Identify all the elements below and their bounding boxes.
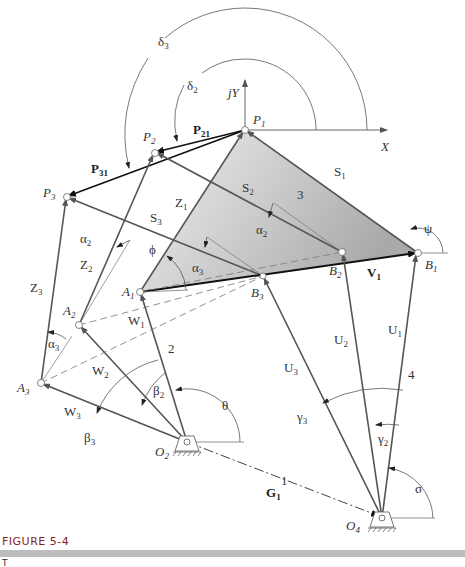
caption-divider-bar — [0, 550, 465, 557]
delta3-arc-tail — [125, 58, 148, 168]
vector-u1 — [382, 255, 416, 518]
label-b2: B2 — [329, 263, 342, 280]
label-z1: Z1 — [175, 195, 187, 212]
delta2-arc-tail — [175, 85, 184, 141]
label-delta2: δ2 — [187, 78, 198, 95]
label-gamma3: γ3 — [296, 409, 308, 426]
label-theta: θ — [222, 398, 228, 413]
label-p3: P3 — [42, 185, 56, 202]
label-a1: A1 — [121, 284, 134, 301]
label-w3: W3 — [64, 404, 81, 421]
label-b1: B1 — [425, 257, 437, 274]
delta3-arc — [165, 8, 367, 130]
ground-pivot-o4 — [368, 512, 396, 532]
label-v1: V1 — [367, 265, 381, 282]
label-psi: ψ — [424, 221, 432, 236]
label-o4: O4 — [346, 518, 360, 535]
label-b3: B3 — [251, 285, 264, 302]
label-o2: O2 — [155, 444, 169, 461]
label-p21: P21 — [193, 122, 210, 139]
label-g1: G1 — [266, 485, 281, 502]
label-link-4: 4 — [408, 367, 415, 382]
label-sigma: σ — [415, 481, 422, 496]
axis-label-y: jY — [226, 85, 241, 100]
label-u2: U2 — [334, 332, 348, 349]
alpha2-ref-line — [79, 240, 130, 325]
label-a3: A3 — [16, 380, 30, 397]
label-w1: W1 — [128, 313, 145, 330]
label-beta2: β2 — [153, 383, 164, 400]
label-s1: S1 — [334, 164, 346, 181]
label-z2: Z2 — [80, 257, 92, 274]
axis-label-x: X — [380, 139, 390, 154]
three-position-synthesis-diagram: jY X P1 P2 P3 A1 A2 A3 B1 B2 B3 O2 O4 P2… — [0, 0, 465, 567]
label-s3: S3 — [150, 210, 162, 227]
label-beta3: β3 — [84, 430, 96, 447]
label-w2: W2 — [92, 363, 109, 380]
label-link-2: 2 — [168, 341, 175, 356]
figure-subcaption-partial: T — [2, 558, 8, 567]
ground-pivot-o2 — [173, 436, 201, 456]
label-p31: P31 — [91, 161, 108, 178]
label-a2: A2 — [62, 303, 76, 320]
label-delta3: δ3 — [158, 34, 169, 51]
label-gamma2: γ2 — [377, 431, 388, 448]
figure-caption: FIGURE 5-4 — [2, 535, 69, 548]
label-u1: U1 — [388, 322, 402, 339]
label-u3: U3 — [284, 360, 298, 377]
label-alpha2-left: α2 — [80, 231, 91, 248]
label-alpha3-left: α3 — [48, 336, 60, 353]
label-link-1: 1 — [281, 473, 288, 488]
label-p1: P1 — [252, 112, 265, 129]
label-p2: P2 — [142, 129, 156, 146]
label-phi: ϕ — [149, 242, 156, 257]
vector-z3 — [41, 199, 66, 383]
label-z3: Z3 — [30, 280, 43, 297]
label-link-3: 3 — [297, 187, 304, 202]
